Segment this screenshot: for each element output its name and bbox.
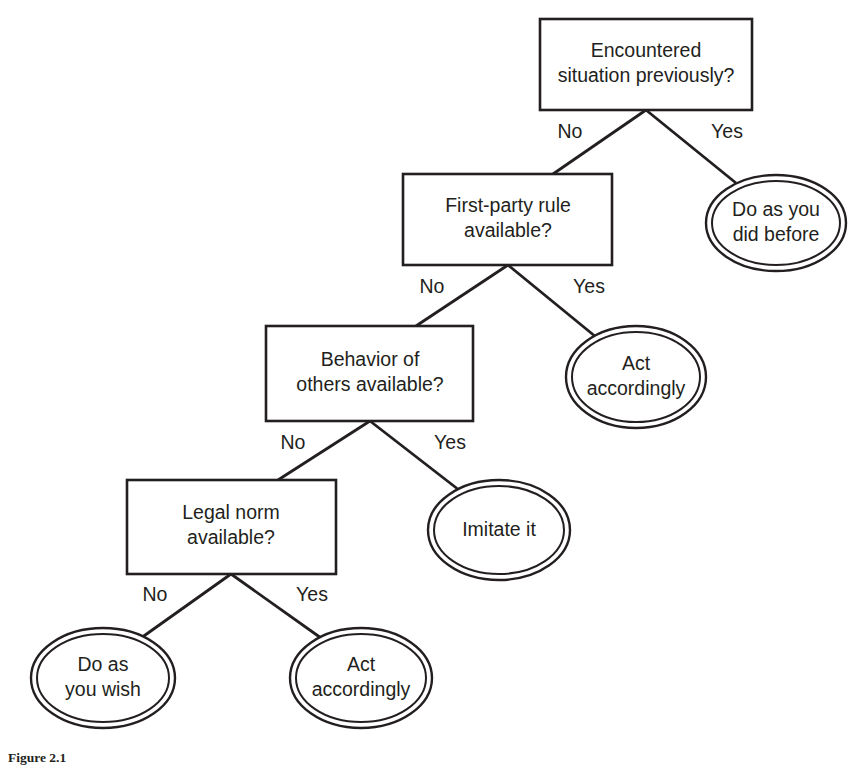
terminal-label-line-1: Act xyxy=(347,653,376,675)
terminal-node-imitate-it[interactable]: Imitate it xyxy=(428,480,570,580)
edge-label-yes-level-4: Yes xyxy=(296,583,328,605)
edge-label-no-level-3: No xyxy=(281,431,306,453)
node-label-line-2: situation previously? xyxy=(558,64,735,86)
terminal-label-line-2: accordingly xyxy=(587,377,686,399)
node-label-line-2: available? xyxy=(187,526,275,548)
figure-root: Encountered situation previously? First-… xyxy=(0,0,864,765)
node-label-line-2: available? xyxy=(464,219,552,241)
node-label-line-1: Legal norm xyxy=(182,501,280,523)
terminal-node-do-as-you-wish[interactable]: Do as you wish xyxy=(31,628,175,728)
edge-label-no-level-4: No xyxy=(143,583,168,605)
node-label-line-1: Encountered xyxy=(591,39,702,61)
terminal-node-act-accordingly-lower[interactable]: Act accordingly xyxy=(290,628,432,728)
decision-tree-diagram: Encountered situation previously? First-… xyxy=(0,0,864,765)
decision-node-behavior-of-others[interactable]: Behavior of others available? xyxy=(266,326,473,421)
decision-node-encountered-situation[interactable]: Encountered situation previously? xyxy=(540,19,752,110)
terminal-label-line-2: did before xyxy=(733,223,820,245)
edge-label-yes-level-2: Yes xyxy=(573,275,605,297)
decision-node-legal-norm[interactable]: Legal norm available? xyxy=(127,480,336,574)
terminal-label-line-2: you wish xyxy=(65,678,141,700)
node-label-line-1: First-party rule xyxy=(445,194,571,216)
terminal-label-line-1: Do as xyxy=(78,653,129,675)
edge-label-yes-level-3: Yes xyxy=(434,431,466,453)
figure-caption: Figure 2.1 xyxy=(8,750,528,765)
terminal-node-act-accordingly-upper[interactable]: Act accordingly xyxy=(566,326,706,428)
node-label-line-1: Behavior of xyxy=(321,348,420,370)
node-label-line-2: others available? xyxy=(296,373,444,395)
edge-label-yes-level-1: Yes xyxy=(711,120,743,142)
edge-label-no-level-1: No xyxy=(558,120,583,142)
decision-node-first-party-rule[interactable]: First-party rule available? xyxy=(403,174,612,265)
terminal-label-line-1: Imitate it xyxy=(462,518,536,540)
terminal-node-do-as-you-did-before[interactable]: Do as you did before xyxy=(706,175,846,271)
terminal-label-line-1: Act xyxy=(622,352,651,374)
terminal-label-line-1: Do as you xyxy=(732,198,820,220)
edge-label-no-level-2: No xyxy=(420,275,445,297)
terminal-label-line-2: accordingly xyxy=(312,678,411,700)
